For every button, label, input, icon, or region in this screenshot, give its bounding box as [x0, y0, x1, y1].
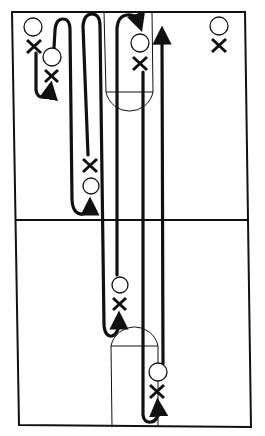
offense-player-o5 — [83, 178, 99, 194]
drill-diagram — [0, 0, 265, 436]
offense-player-o6 — [112, 277, 128, 293]
offense-player-o3 — [131, 34, 149, 52]
movement-path-4 — [117, 15, 139, 275]
defense-player-x1 — [27, 40, 41, 53]
offense-player-o2 — [43, 48, 61, 66]
movement-path-6 — [162, 35, 163, 364]
defense-player-x4 — [212, 39, 226, 52]
defense-player-x7 — [150, 385, 164, 398]
offense-player-o1 — [24, 18, 42, 36]
defense-player-x2 — [45, 70, 58, 82]
players — [24, 17, 228, 398]
movement-paths — [36, 14, 163, 422]
top-key-semicircle — [106, 92, 153, 111]
offense-player-o4 — [210, 17, 228, 35]
offense-player-o7 — [149, 363, 167, 381]
defense-player-x5 — [83, 159, 97, 172]
defense-player-x3 — [133, 57, 147, 70]
defense-player-x6 — [113, 298, 126, 310]
top-key-lane — [104, 12, 153, 92]
